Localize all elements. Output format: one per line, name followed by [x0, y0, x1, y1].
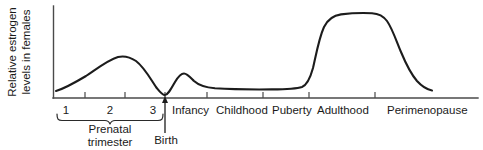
- estrogen-curve: [56, 13, 432, 95]
- stage-label-puberty: Puberty: [272, 104, 312, 116]
- stage-label-adulthood: Adulthood: [317, 104, 369, 116]
- y-axis-label-line2: levels in females: [20, 9, 32, 94]
- y-axis-label: Relative estrogen levels in females: [6, 7, 32, 97]
- prenatal-label-line2: trimester: [88, 136, 133, 148]
- stage-label-infancy: Infancy: [172, 104, 209, 116]
- x-axis-stage-labels: Infancy Childhood Puberty Adulthood Peri…: [172, 104, 468, 116]
- trimester-label-2: 2: [107, 104, 113, 116]
- birth-arrow-head: [162, 96, 168, 103]
- trimester-number-labels: 1 2 3: [63, 104, 156, 116]
- trimester-label-1: 1: [63, 104, 69, 116]
- x-axis-ticks: [85, 92, 375, 98]
- y-axis-label-line1: Relative estrogen: [6, 7, 18, 97]
- trimester-label-3: 3: [150, 104, 156, 116]
- stage-label-perimenopause: Perimenopause: [387, 104, 468, 116]
- prenatal-trimester-label: Prenatal trimester: [88, 123, 133, 148]
- birth-label: Birth: [154, 134, 178, 146]
- stage-label-childhood: Childhood: [216, 104, 268, 116]
- prenatal-label-line1: Prenatal: [89, 123, 132, 135]
- estrogen-levels-chart: Relative estrogen levels in females: [0, 0, 483, 150]
